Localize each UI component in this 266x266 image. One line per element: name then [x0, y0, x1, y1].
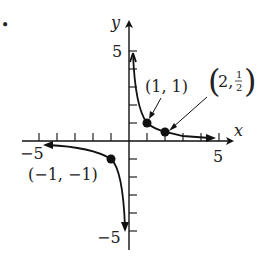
label-point-2-half: ( 2, 1 2 ) — [208, 62, 256, 100]
y-tick-label-5: 5 — [112, 42, 122, 61]
label-point-1-1: (1, 1) — [145, 77, 188, 96]
svg-text:2: 2 — [236, 82, 242, 93]
x-tick-label-neg5: −5 — [20, 144, 44, 163]
arrowhead-left-icon — [43, 141, 53, 149]
x-axis-label: x — [234, 121, 243, 140]
point-1-1 — [143, 119, 152, 128]
reciprocal-function-graph: • x y 5 −5 5 −5 — [0, 0, 266, 266]
annotation-arrow-2-half — [172, 97, 207, 128]
arrowhead-down-icon — [121, 222, 129, 232]
point-2-half — [161, 128, 170, 137]
list-bullet: • — [1, 17, 9, 33]
svg-text:2,: 2, — [218, 72, 233, 91]
svg-text:1: 1 — [236, 69, 242, 80]
x-tick-label-5: 5 — [213, 147, 223, 166]
point-neg1-neg1 — [107, 155, 116, 164]
annotation-arrowhead-icon — [149, 111, 155, 119]
label-point-neg1-neg1: (−1, −1) — [28, 165, 98, 184]
y-axis-label: y — [110, 13, 121, 32]
y-tick-label-neg5: −5 — [97, 228, 121, 247]
right-paren: ) — [244, 62, 256, 100]
